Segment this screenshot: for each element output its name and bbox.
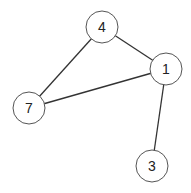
- node-1: 1: [150, 53, 182, 85]
- graph-diagram: 4 1 7 3: [0, 0, 191, 193]
- node-4-label: 4: [98, 19, 106, 35]
- nodes: 4 1 7 3: [13, 11, 182, 182]
- edge-7-1: [29, 69, 166, 108]
- edges: [29, 27, 166, 166]
- node-4: 4: [86, 11, 118, 43]
- node-3-label: 3: [148, 158, 156, 174]
- node-7-label: 7: [25, 100, 33, 116]
- node-1-label: 1: [162, 61, 170, 77]
- node-3: 3: [136, 150, 168, 182]
- node-7: 7: [13, 92, 45, 124]
